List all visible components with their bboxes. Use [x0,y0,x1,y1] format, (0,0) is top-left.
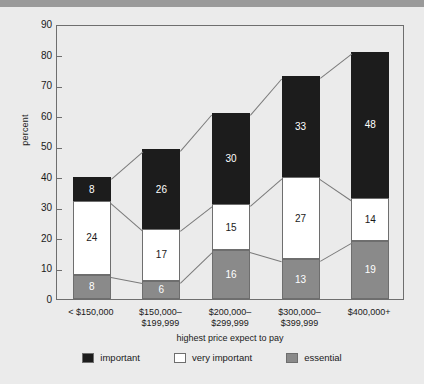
y-tick-mark [57,239,62,240]
y-tick-mark [57,178,62,179]
y-tick-label: 50 [26,142,52,152]
y-tick-label: 40 [26,173,52,183]
bar-segment-essential[interactable]: 8 [73,275,111,299]
bar-segment-important[interactable]: 8 [73,177,111,201]
legend-swatch-icon [82,353,94,363]
y-axis-tick-labels: 0102030405060708090 [26,25,52,300]
y-tick-mark [57,209,62,210]
legend-label: essential [304,352,342,363]
bar-value-label: 13 [295,274,306,285]
legend-swatch-icon [174,353,186,363]
y-tick-mark [57,56,62,57]
bar-segment-essential[interactable]: 16 [212,250,250,299]
x-axis-tick-labels: < $150,000$150,000–$199,999$200,000–$299… [56,305,404,335]
bar-group[interactable]: 161530 [212,24,250,299]
stack-connector-line [250,78,282,115]
y-tick-mark [57,87,62,88]
x-tick-label-line: $150,000– [126,307,196,318]
y-tick-mark [57,117,62,118]
bar-value-label: 30 [225,153,236,164]
stack-connector-line [319,179,351,201]
top-gray-strip [0,0,424,7]
bar-value-label: 33 [295,121,306,132]
bar-value-label: 14 [365,214,376,225]
stack-connector-line [111,151,143,179]
bar-value-label: 26 [156,184,167,195]
bar-value-label: 27 [295,213,306,224]
bar-segment-very-important[interactable]: 17 [142,229,180,281]
bar-value-label: 16 [225,269,236,280]
bar-segment-important[interactable]: 30 [212,113,250,205]
stack-connector-line [111,277,143,284]
bar-value-label: 48 [365,119,376,130]
legend-label: very important [192,352,252,363]
y-tick-label: 90 [26,20,52,30]
stack-connector-line [320,54,352,79]
bar-segment-important[interactable]: 48 [351,52,389,199]
bar-segment-very-important[interactable]: 24 [73,201,111,274]
legend-item[interactable]: very important [174,352,252,363]
y-tick-label: 10 [26,264,52,274]
stack-connector-line [320,243,352,262]
x-tick-label-line: $299,999 [195,318,265,329]
x-tick-label: $150,000–$199,999 [126,307,196,329]
x-tick-label-line: $399,999 [265,318,335,329]
bar-segment-very-important[interactable]: 15 [212,204,250,250]
bar-value-label: 8 [89,281,95,292]
bar-segment-very-important[interactable]: 14 [351,198,389,241]
bar-group[interactable]: 8248 [73,24,111,299]
bar-value-label: 15 [225,222,236,233]
bar-value-label: 19 [365,264,376,275]
bar-group[interactable]: 191448 [351,24,389,299]
stack-connector-line [180,252,212,283]
stack-connector-line [180,206,212,231]
y-tick-mark [57,148,62,149]
chart-page: percent 0102030405060708090 824861726161… [0,0,424,384]
stacked-bar-chart: percent 0102030405060708090 824861726161… [0,7,424,384]
bar-segment-important[interactable]: 33 [282,76,320,177]
legend-label: important [100,352,140,363]
x-tick-label: $300,000–$399,999 [265,307,335,329]
x-tick-label: $200,000–$299,999 [195,307,265,329]
y-tick-mark [57,270,62,271]
legend-item[interactable]: essential [286,352,342,363]
x-tick-label-line: < $150,000 [56,307,126,318]
stack-connector-line [250,252,282,262]
bar-segment-very-important[interactable]: 27 [282,177,320,260]
bar-value-label: 17 [156,249,167,260]
x-tick-label-line: $300,000– [265,307,335,318]
y-tick-label: 60 [26,112,52,122]
y-tick-label: 70 [26,81,52,91]
bar-value-label: 8 [89,184,95,195]
legend-item[interactable]: important [82,352,140,363]
bar-value-label: 24 [86,232,97,243]
bar-group[interactable]: 132733 [282,24,320,299]
y-tick-label: 0 [26,295,52,305]
x-tick-label: $400,000+ [334,307,404,318]
y-tick-label: 30 [26,203,52,213]
x-tick-label-line: $200,000– [195,307,265,318]
bar-group[interactable]: 61726 [142,24,180,299]
plot-area: 824861726161530132733191448 [56,25,404,300]
x-axis-title: highest price expect to pay [56,333,404,343]
y-tick-label: 80 [26,51,52,61]
chart-legend: importantvery importantessential [0,352,424,363]
x-tick-label: < $150,000 [56,307,126,318]
stack-connector-line [250,179,282,207]
bar-segment-important[interactable]: 26 [142,149,180,228]
x-tick-label-line: $199,999 [126,318,196,329]
bar-segment-essential[interactable]: 13 [282,259,320,299]
bar-value-label: 6 [159,284,165,295]
stack-connector-line [110,203,142,231]
legend-swatch-icon [286,353,298,363]
x-tick-label-line: $400,000+ [334,307,404,318]
stack-connector-line [180,115,212,152]
bar-segment-essential[interactable]: 6 [142,281,180,299]
y-tick-label: 20 [26,234,52,244]
bar-segment-essential[interactable]: 19 [351,241,389,299]
